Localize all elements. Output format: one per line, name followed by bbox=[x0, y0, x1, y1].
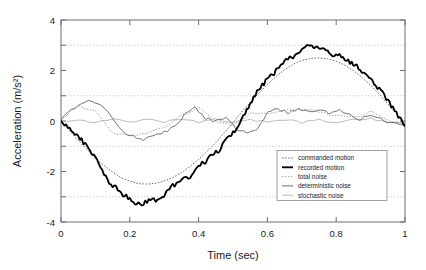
x-axis-title: Time (sec) bbox=[207, 249, 259, 261]
y-axis-title: Acceleration (m/s²) bbox=[11, 75, 23, 167]
x-tick-label-0-2: 0.2 bbox=[123, 228, 136, 239]
x-tick-label-0-4: 0.4 bbox=[192, 228, 205, 239]
y-tick-label-0: 0 bbox=[50, 116, 55, 127]
legend-label-deterministic-noise: deterministic noise bbox=[298, 182, 351, 189]
y-tick-label-2: 2 bbox=[50, 65, 55, 76]
legend-label-stochastic-noise: stochastic noise bbox=[298, 192, 344, 199]
x-tick-label-0-8: 0.8 bbox=[330, 228, 343, 239]
legend-label-total-noise: total noise bbox=[298, 173, 328, 180]
x-tick-label-0-6: 0.6 bbox=[261, 228, 274, 239]
y-tick-label-4: 4 bbox=[50, 15, 55, 26]
acceleration-noise-chart: 4 2 0 -2 -4 0 0.2 0.4 0.6 0.8 1 Time (se… bbox=[0, 0, 426, 270]
legend-label-recorded-motion: recorded motion bbox=[298, 164, 345, 171]
y-tick-label-neg4: -4 bbox=[47, 217, 55, 228]
chart-background bbox=[0, 0, 426, 270]
legend-label-commanded-motion: commanded motion bbox=[298, 154, 355, 161]
x-tick-label-1: 1 bbox=[402, 228, 407, 239]
x-tick-label-0: 0 bbox=[58, 228, 63, 239]
y-tick-label-neg2: -2 bbox=[47, 166, 55, 177]
legend: commanded motion recorded motion total n… bbox=[277, 151, 387, 201]
